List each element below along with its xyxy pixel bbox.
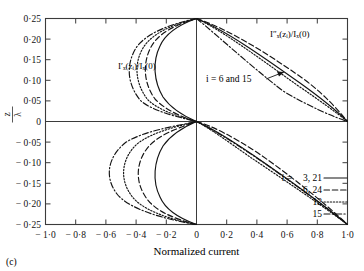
pointer-note-label: i = 6 and 15	[206, 74, 252, 84]
figure-panel-c: 0·25 0·20 0·15 0·10 0·05 0 − 0·05 − 0·10…	[0, 0, 364, 271]
pointer-arrow-icon	[277, 72, 284, 77]
chart-svg: 0·25 0·20 0·15 0·10 0·05 0 − 0·05 − 0·10…	[0, 0, 364, 271]
legend-label-0: i =	[282, 173, 292, 183]
x-tick-label: 0·2	[220, 230, 233, 240]
y-axis-title-numerator: z	[2, 112, 12, 116]
y-tick-label: − 0·15	[16, 179, 41, 189]
y-tick-label: − 0·20	[16, 199, 41, 209]
y-axis-title: z λ	[2, 107, 23, 123]
curve-right-lower-i15	[197, 122, 348, 225]
y-axis-title-denominator: λ	[13, 112, 23, 117]
legend-entry-label-3: 15	[313, 209, 323, 219]
x-tick-label: 0·6	[281, 230, 294, 240]
y-tick-label: 0	[36, 117, 41, 127]
curve-group-right-lower	[197, 122, 348, 225]
x-tick-label: − 0·4	[126, 230, 147, 240]
curve-left-lower-i15	[109, 122, 196, 225]
curve-group-left-lower	[109, 122, 196, 225]
curve-right-lower-i6-24	[197, 122, 348, 225]
y-tick-label: 0·15	[24, 55, 42, 65]
x-tick-label: − 1·0	[35, 230, 56, 240]
panel-label: (c)	[6, 257, 17, 268]
curve-right-lower-i12	[197, 122, 348, 225]
x-tick-label: − 0·8	[65, 230, 86, 240]
x-axis-title: Normalized current	[154, 245, 240, 257]
left-curve-family-label: I′ₓ(zᵢ)/Iₓ(0)	[118, 61, 156, 71]
y-tick-label: 0·20	[24, 35, 42, 45]
legend-entry-label-1: 6, 24	[303, 185, 322, 195]
legend-entry-label-0: 3, 21	[303, 173, 322, 183]
right-curve-family-label: I″ₓ(zᵢ)/Iₓ(0)	[270, 29, 309, 39]
y-tick-label: − 0·05	[16, 138, 41, 148]
curve-right-lower-i3-21	[197, 122, 348, 225]
y-axis-ticks	[46, 19, 51, 225]
x-tick-label: 0·4	[251, 230, 264, 240]
curve-left-upper-i3-21	[155, 19, 197, 122]
x-tick-label: − 0·6	[96, 230, 117, 240]
x-axis-ticks	[46, 220, 348, 225]
y-tick-labels: 0·25 0·20 0·15 0·10 0·05 0 − 0·05 − 0·10…	[16, 14, 41, 230]
legend: i = 3, 21 6, 24 12 15	[282, 173, 347, 219]
x-tick-label: 0·8	[311, 230, 324, 240]
y-tick-label: 0·10	[24, 76, 42, 86]
x-tick-label: 0	[194, 230, 199, 240]
x-tick-label: 1·0	[341, 230, 354, 240]
legend-entry-label-2: 12	[313, 197, 323, 207]
x-tick-labels: − 1·0 − 0·8 − 0·6 − 0·4 − 0·2 0 0·2 0·4 …	[35, 230, 354, 240]
y-tick-label: − 0·10	[16, 158, 41, 168]
x-tick-label: − 0·2	[156, 230, 177, 240]
curve-left-lower-i6-24	[138, 122, 196, 225]
y-tick-label: 0·05	[24, 96, 42, 106]
y-tick-label: − 0·25	[16, 220, 41, 230]
y-tick-label: 0·25	[24, 14, 42, 24]
